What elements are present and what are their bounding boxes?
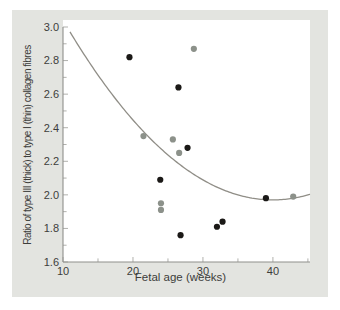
y-tick-label: 1.8	[44, 222, 59, 234]
y-tick-label: 3.0	[44, 21, 59, 33]
chart-panel: 102030401.61.82.02.22.42.62.83.0 Fetal a…	[12, 10, 328, 297]
y-tick-label: 2.6	[44, 88, 59, 100]
gray-point	[170, 136, 176, 142]
black-point	[184, 145, 190, 151]
gray-point	[140, 133, 146, 139]
scatter-chart-canvas: 102030401.61.82.02.22.42.62.83.0	[12, 10, 328, 297]
plot-area	[63, 20, 310, 262]
black-point	[263, 195, 269, 201]
y-tick-label: 2.8	[44, 54, 59, 66]
y-tick-label: 2.4	[44, 122, 59, 134]
x-axis-title: Fetal age (weeks)	[57, 271, 304, 286]
black-point	[177, 232, 183, 238]
y-tick-label: 1.6	[44, 256, 59, 268]
black-point	[126, 54, 132, 60]
black-point	[157, 177, 163, 183]
y-axis-title: Ratio of type III (thick) to type I (thi…	[22, 15, 36, 275]
black-point	[175, 84, 181, 90]
gray-point	[290, 193, 296, 199]
figure-page: 102030401.61.82.02.22.42.62.83.0 Fetal a…	[0, 0, 340, 310]
gray-point	[158, 207, 164, 213]
y-tick-label: 2.0	[44, 189, 59, 201]
gray-point	[158, 200, 164, 206]
gray-point	[191, 46, 197, 52]
gray-point	[176, 150, 182, 156]
y-tick-label: 2.2	[44, 155, 59, 167]
black-point	[214, 224, 220, 230]
black-point	[219, 219, 225, 225]
